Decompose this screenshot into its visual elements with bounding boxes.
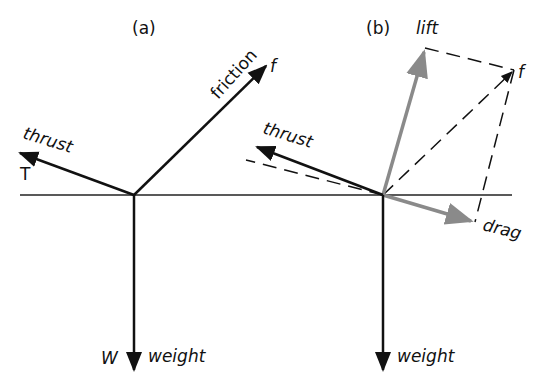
panel-b-title: (b)	[366, 18, 390, 38]
thrust-label-a: thrust	[21, 123, 77, 157]
weight-label-b: weight	[397, 346, 456, 366]
thrust-symbol-a: T	[19, 164, 31, 184]
lift-arrow-b	[383, 52, 424, 195]
thrust-arrow-a	[20, 153, 134, 195]
thrust-label-b: thrust	[261, 118, 317, 152]
resultant-symbol-b: f	[518, 62, 527, 82]
drag-label-b: drag	[481, 214, 524, 243]
panel-a-title: (a)	[132, 18, 156, 38]
force-diagram: (a) thrust T friction f W weight (b) lif…	[0, 0, 540, 379]
panel-a: (a) thrust T friction f W weight	[19, 18, 279, 370]
thrust-arrow-b	[257, 147, 383, 195]
panel-b: (b) lift f thrust drag weight	[246, 18, 527, 370]
friction-label-a: friction	[206, 45, 261, 103]
lift-label-b: lift	[416, 18, 439, 38]
drag-arrow-b	[383, 195, 471, 221]
dashed-thrust-line	[246, 160, 383, 195]
weight-label-a: weight	[148, 346, 207, 366]
dashed-f-to-drag	[475, 70, 514, 222]
dashed-lift-to-f	[425, 48, 514, 70]
friction-symbol-a: f	[270, 56, 279, 76]
friction-arrow-a	[134, 66, 266, 195]
weight-symbol-a: W	[101, 348, 119, 368]
